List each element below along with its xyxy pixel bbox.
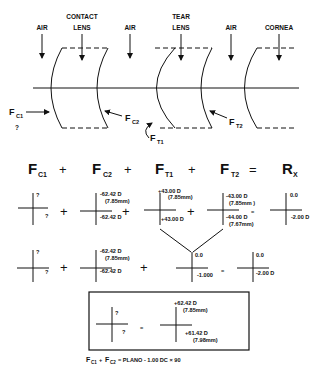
svg-text:C1: C1 — [16, 113, 23, 119]
equation-header: F C1 + F C2 + F T1 + F T2 = R X — [28, 160, 298, 178]
svg-text:=: = — [221, 268, 225, 274]
svg-text:-44.00 D: -44.00 D — [226, 214, 247, 220]
air2-label: AIR — [124, 24, 136, 31]
air3-label: AIR — [225, 24, 237, 31]
svg-text:C1: C1 — [91, 360, 97, 365]
svg-text:?: ? — [45, 213, 49, 219]
svg-text:T2: T2 — [236, 123, 243, 129]
svg-text:T1: T1 — [157, 139, 164, 145]
svg-text:+: + — [124, 162, 132, 177]
ft2-pointer-arrow — [210, 111, 227, 118]
caption: F C1 + F C2 = PLANO - 1.00 DC × 90 — [86, 356, 181, 365]
svg-text:C1: C1 — [38, 171, 47, 178]
svg-text:+: + — [188, 162, 196, 177]
svg-text:+: + — [60, 260, 68, 275]
tear-lens-label-1: TEAR — [172, 13, 190, 20]
svg-text:-43.00 D: -43.00 D — [226, 193, 247, 199]
contact-lens-label-1: CONTACT — [66, 13, 97, 20]
fc1-surface-label: F C1 ? — [9, 107, 23, 131]
svg-text:C2: C2 — [110, 360, 116, 365]
svg-text:+: + — [140, 260, 148, 275]
svg-text:= PLANO - 1.00 DC × 90: = PLANO - 1.00 DC × 90 — [118, 357, 181, 363]
svg-text:=: = — [140, 325, 144, 331]
ft1-surface-label: F T1 — [150, 133, 164, 145]
term-fc2: F — [92, 160, 101, 177]
svg-text:C2: C2 — [103, 171, 112, 178]
svg-text:X: X — [293, 171, 298, 178]
svg-text:=: = — [249, 162, 257, 177]
svg-text:T2: T2 — [231, 171, 239, 178]
contact-lens-power-diagram: AIR CONTACT LENS AIR TEAR LENS AIR CORNE… — [0, 0, 321, 378]
svg-text:F: F — [150, 133, 156, 143]
ft2-surface-label: F T2 — [229, 117, 243, 129]
svg-text:+: + — [187, 204, 195, 219]
fc2-surface-label: F C2 — [125, 113, 139, 125]
svg-text:-1.000: -1.000 — [197, 272, 213, 278]
svg-text:+61.42 D: +61.42 D — [185, 330, 208, 336]
svg-text:+: + — [122, 204, 130, 219]
svg-text:0.0: 0.0 — [195, 252, 203, 258]
svg-text:(7.85mm): (7.85mm) — [183, 307, 208, 313]
svg-text:T1: T1 — [165, 171, 173, 178]
svg-text:-62.42 D: -62.42 D — [100, 248, 121, 254]
svg-text:?: ? — [36, 192, 40, 198]
svg-text:C2: C2 — [132, 119, 139, 125]
svg-text:0.0: 0.0 — [256, 252, 264, 258]
svg-text:-2.00 D: -2.00 D — [256, 270, 274, 276]
svg-text:F: F — [9, 107, 15, 117]
svg-text:F: F — [229, 117, 235, 127]
svg-text:(7.98mm): (7.98mm) — [193, 337, 218, 343]
plus-sign: + — [59, 162, 67, 177]
svg-text:-62.42 D: -62.42 D — [100, 191, 121, 197]
svg-text:?: ? — [36, 249, 40, 255]
svg-text:F: F — [125, 113, 131, 123]
svg-text:(7.67mm): (7.67mm) — [229, 221, 254, 227]
svg-text:(7.85mm): (7.85mm) — [105, 255, 130, 261]
svg-text:-2.00 D: -2.00 D — [291, 214, 309, 220]
row2-values: ? ? + -62.42 D (7.85mm) -62.42 D + 0.0 -… — [36, 248, 274, 278]
svg-text:=: = — [251, 209, 255, 215]
result-box — [89, 292, 249, 350]
result-crosses — [96, 307, 192, 342]
svg-text:?: ? — [15, 124, 19, 131]
cornea-label: CORNEA — [265, 24, 293, 31]
term-fc1: F — [28, 160, 37, 177]
svg-text:+43.00 D: +43.00 D — [161, 216, 184, 222]
result-values: ? ? = +62.42 D (7.85mm) +61.42 D (7.98mm… — [115, 300, 218, 343]
svg-text:(7.85mm): (7.85mm) — [168, 194, 193, 200]
row1-values: ? ? + -62.42 D (7.85mm) -62.42 D + +43.0… — [36, 188, 309, 227]
tear-lens-label-2: LENS — [172, 24, 190, 31]
term-ft2: F — [220, 160, 229, 177]
contact-lens-label-2: LENS — [73, 24, 91, 31]
svg-text:+62.42 D: +62.42 D — [174, 300, 197, 306]
air1-label: AIR — [36, 24, 48, 31]
svg-text:0.0: 0.0 — [290, 192, 298, 198]
svg-text:+: + — [60, 204, 68, 219]
svg-text:?: ? — [122, 329, 126, 335]
row1-crosses — [18, 193, 302, 252]
fc2-pointer-arrow — [105, 111, 122, 116]
svg-text:?: ? — [45, 269, 49, 275]
svg-text:-62.42 D: -62.42 D — [100, 268, 121, 274]
optical-schematic — [26, 34, 299, 138]
svg-text:-62.42 D: -62.42 D — [100, 214, 121, 220]
svg-text:?: ? — [115, 310, 119, 316]
svg-text:+: + — [99, 357, 103, 363]
svg-text:(7.85mm ): (7.85mm ) — [229, 200, 255, 206]
term-ft1: F — [155, 160, 164, 177]
term-rx: R — [282, 160, 293, 177]
